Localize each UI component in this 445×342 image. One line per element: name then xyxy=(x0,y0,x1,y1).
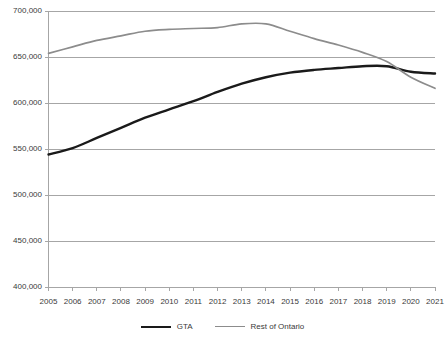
y-tick-label: 400,000 xyxy=(0,282,42,291)
series-line-rest-of-ontario xyxy=(49,23,436,88)
y-tick-label: 450,000 xyxy=(0,236,42,245)
line-chart: 700,000650,000600,000550,000500,000450,0… xyxy=(0,0,445,342)
gridlines xyxy=(49,11,436,287)
chart-plot-area xyxy=(0,0,445,342)
series-line-gta xyxy=(49,66,436,155)
y-tick-label: 500,000 xyxy=(0,190,42,199)
legend-item-gta[interactable]: GTA xyxy=(141,322,193,331)
data-series xyxy=(49,23,436,154)
legend-label: Rest of Ontario xyxy=(251,322,305,331)
legend-item-rest-of-ontario[interactable]: Rest of Ontario xyxy=(215,322,305,331)
x-axis-ticks xyxy=(49,287,436,291)
y-tick-label: 550,000 xyxy=(0,144,42,153)
legend-label: GTA xyxy=(177,322,193,331)
y-tick-label: 600,000 xyxy=(0,98,42,107)
y-tick-label: 650,000 xyxy=(0,52,42,61)
legend-line-swatch-icon xyxy=(215,326,245,327)
chart-legend: GTARest of Ontario xyxy=(0,322,445,331)
legend-line-swatch-icon xyxy=(141,326,171,328)
x-tick-label: 2021 xyxy=(420,297,445,306)
y-axis-ticks xyxy=(45,11,49,287)
y-tick-label: 700,000 xyxy=(0,6,42,15)
